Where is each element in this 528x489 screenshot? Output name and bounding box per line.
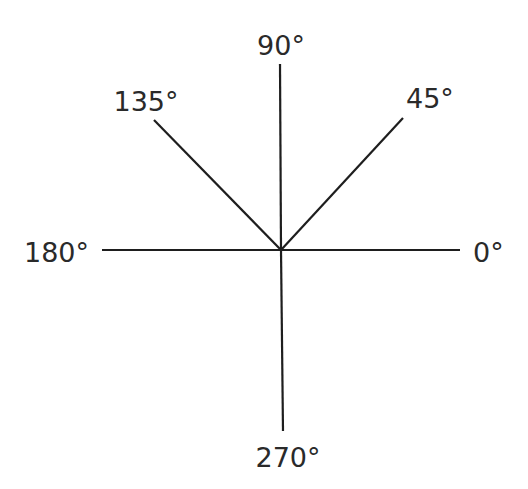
label-0-deg: 0° <box>473 237 504 268</box>
ray-135-deg <box>154 120 281 250</box>
label-135-deg: 135° <box>113 86 178 117</box>
label-180-deg: 180° <box>24 237 89 268</box>
rays-group <box>102 64 460 431</box>
ray-270-deg <box>281 250 283 431</box>
label-90-deg: 90° <box>257 30 305 61</box>
label-45-deg: 45° <box>406 83 454 114</box>
ray-90-deg <box>280 64 281 250</box>
angle-diagram: 0°45°90°135°180°270° <box>0 0 528 489</box>
label-270-deg: 270° <box>255 442 320 473</box>
ray-45-deg <box>281 118 403 250</box>
labels-group: 0°45°90°135°180°270° <box>24 30 504 473</box>
